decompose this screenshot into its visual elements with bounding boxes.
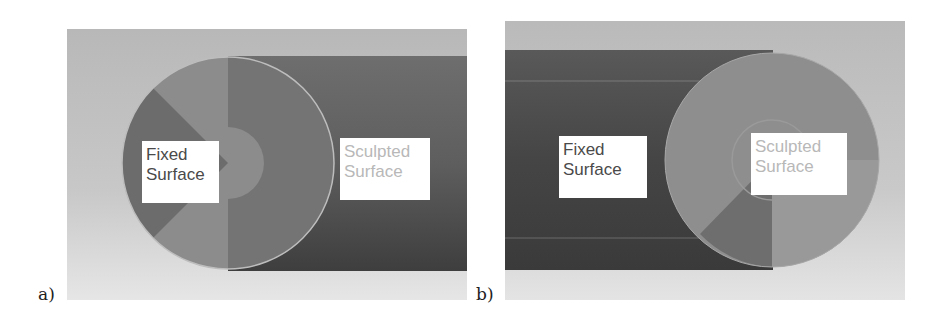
panel-a-sculpted-line2: Surface	[344, 162, 426, 182]
panel-b-fixed-surface-label: Fixed Surface	[559, 136, 647, 198]
panel-b: Fixed Surface Sculpted Surface b)	[470, 0, 942, 329]
panel-a: Fixed Surface Sculpted Surface a)	[0, 0, 470, 329]
panel-a-fixed-surface-label: Fixed Surface	[142, 141, 219, 203]
panel-a-fixed-line1: Fixed	[146, 145, 215, 165]
panel-b-illustration	[470, 0, 942, 329]
panel-b-sculpted-surface-label: Sculpted Surface	[751, 133, 847, 195]
panel-a-sculpted-surface-label: Sculpted Surface	[340, 138, 430, 200]
panel-b-fixed-line1: Fixed	[563, 140, 643, 160]
panel-a-fixed-line2: Surface	[146, 165, 215, 185]
panel-b-fixed-line2: Surface	[563, 160, 643, 180]
panel-b-letter: b)	[476, 284, 494, 304]
panel-a-sculpted-line1: Sculpted	[344, 142, 426, 162]
panel-b-sculpted-line1: Sculpted	[755, 137, 843, 157]
panel-a-letter: a)	[38, 284, 55, 304]
panel-b-sculpted-line2: Surface	[755, 157, 843, 177]
